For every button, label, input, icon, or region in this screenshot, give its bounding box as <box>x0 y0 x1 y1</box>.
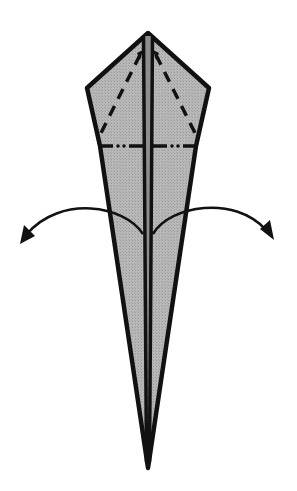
diagram-svg <box>0 0 297 491</box>
arrowhead-right-icon <box>260 220 274 240</box>
origami-diagram <box>0 0 297 491</box>
